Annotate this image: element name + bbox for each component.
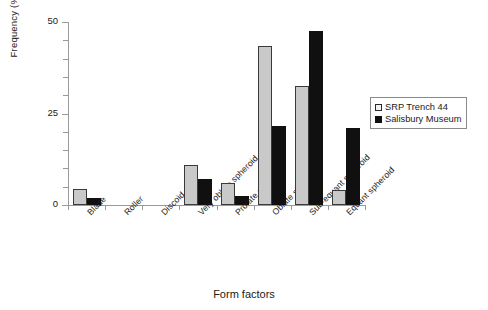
x-axis-title: Form factors (0, 288, 488, 300)
y-axis-title: Frequency (%) (8, 0, 28, 80)
y-axis-tick-label: 25 (47, 107, 58, 118)
x-axis-tick (105, 205, 106, 210)
y-axis-minor-tick (63, 187, 68, 188)
y-axis-minor-tick (63, 77, 68, 78)
y-axis-minor-tick (63, 168, 68, 169)
y-axis-tick: 25 (62, 114, 68, 115)
y-axis-minor-tick (63, 59, 68, 60)
bar-srp-trench-44 (295, 86, 309, 205)
bar-srp-trench-44 (73, 189, 87, 205)
y-axis-tick-label: 50 (47, 15, 58, 26)
legend-item-srp-trench-44: SRP Trench 44 (375, 101, 461, 113)
bar-srp-trench-44 (258, 46, 272, 205)
y-axis-tick: 50 (62, 22, 68, 23)
x-axis-tick-label: Discoid (159, 190, 186, 217)
x-axis-tick (68, 205, 69, 210)
y-axis-minor-tick (63, 40, 68, 41)
legend-item-salisbury-museum: Salisbury Museum (375, 113, 461, 125)
legend-label-salisbury-museum: Salisbury Museum (385, 114, 461, 124)
legend-label-srp-trench-44: SRP Trench 44 (385, 102, 448, 112)
x-axis-tick (365, 205, 366, 210)
x-axis-tick (217, 205, 218, 210)
bar-srp-trench-44 (184, 165, 198, 205)
x-axis-tick (254, 205, 255, 210)
y-axis-tick-label: 0 (53, 198, 58, 209)
plot-area: 02550BladeRollerDiscoidVery oblate spher… (68, 22, 365, 205)
legend: SRP Trench 44 Salisbury Museum (370, 97, 467, 129)
bar-srp-trench-44 (332, 190, 346, 205)
y-axis-minor-tick (63, 95, 68, 96)
x-axis-tick (291, 205, 292, 210)
bar-salisbury-museum (309, 31, 323, 205)
bar-srp-trench-44 (221, 183, 235, 205)
legend-swatch-salisbury-museum (375, 116, 382, 123)
y-axis-minor-tick (63, 150, 68, 151)
bar-salisbury-museum (346, 128, 360, 205)
x-axis-tick (328, 205, 329, 210)
y-axis-line (68, 22, 69, 205)
y-axis-minor-tick (63, 132, 68, 133)
x-axis-tick (142, 205, 143, 210)
legend-swatch-srp-trench-44 (375, 104, 382, 111)
bar-salisbury-museum (272, 126, 286, 205)
x-axis-tick (179, 205, 180, 210)
